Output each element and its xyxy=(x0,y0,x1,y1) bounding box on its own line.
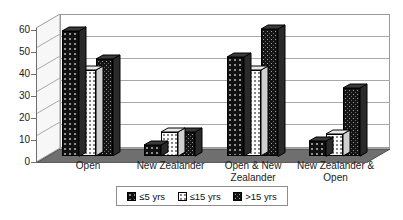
y-tick-40 xyxy=(31,74,37,75)
legend-swatch-icon-series-1 xyxy=(178,192,187,201)
bar-chart: 6050403020100 OpenNew ZealanderOpen & Ne… xyxy=(0,0,403,220)
y-tick-20 xyxy=(31,118,37,119)
plot-area: 6050403020100 xyxy=(0,0,403,175)
legend-label-0: ≤5 yrs xyxy=(139,191,165,202)
bar-1-0 xyxy=(144,145,161,156)
bar-0-0 xyxy=(62,31,79,156)
legend-swatch-icon-series-0 xyxy=(127,192,136,201)
y-tick-label-10: 10 xyxy=(6,135,30,145)
chart-legend: ≤5 yrs ≤15 yrs >15 yrs xyxy=(116,186,288,206)
bar-front-face xyxy=(144,145,161,156)
y-tick-10 xyxy=(31,140,37,141)
bar-3-0 xyxy=(309,141,326,156)
y-axis-line xyxy=(36,28,37,162)
y-tick-label-50: 50 xyxy=(6,47,30,57)
bar-front-face xyxy=(227,57,244,156)
legend-label-2: >15 yrs xyxy=(245,191,276,202)
bar-front-face xyxy=(309,141,326,156)
y-tick-label-20: 20 xyxy=(6,113,30,123)
y-tick-label-30: 30 xyxy=(6,91,30,101)
legend-swatch-icon-series-2 xyxy=(233,192,242,201)
x-category-label-3: New Zealander & Open xyxy=(287,160,384,183)
legend-item-0[interactable]: ≤5 yrs xyxy=(127,191,165,202)
y-tick-60 xyxy=(31,30,37,31)
bar-2-0 xyxy=(227,57,244,156)
y-axis-labels: 6050403020100 xyxy=(0,0,30,175)
bars-layer xyxy=(0,0,403,175)
y-tick-30 xyxy=(31,96,37,97)
legend-label-1: ≤15 yrs xyxy=(190,191,221,202)
bar-front-face xyxy=(62,31,79,156)
y-tick-label-60: 60 xyxy=(6,25,30,35)
legend-item-2[interactable]: >15 yrs xyxy=(233,191,276,202)
y-tick-label-40: 40 xyxy=(6,69,30,79)
y-tick-50 xyxy=(31,52,37,53)
legend-item-1[interactable]: ≤15 yrs xyxy=(178,191,221,202)
